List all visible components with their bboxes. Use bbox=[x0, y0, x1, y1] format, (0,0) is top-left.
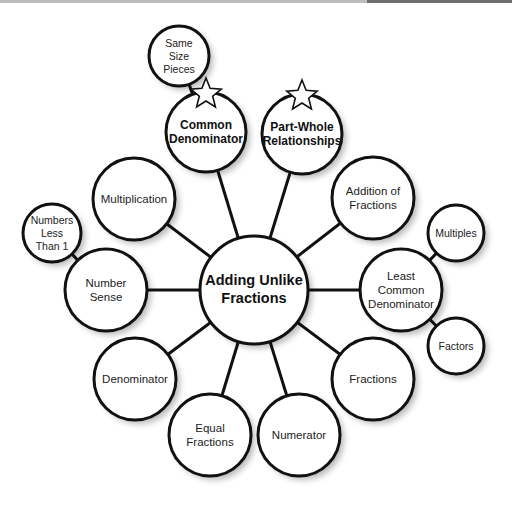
node-label: Multiples bbox=[435, 227, 476, 239]
node-label: Numerator bbox=[272, 429, 326, 441]
node-label: Least bbox=[387, 270, 416, 282]
node-same-size-pieces: SameSizePieces bbox=[149, 26, 209, 86]
node-label: Denominator bbox=[102, 373, 168, 385]
concept-map-canvas: Adding UnlikeFractionsCommonDenominatorP… bbox=[0, 0, 512, 506]
concept-map: Adding UnlikeFractionsCommonDenominatorP… bbox=[0, 0, 512, 506]
node-equal-fractions: EqualFractions bbox=[169, 394, 251, 476]
node-fractions: Fractions bbox=[332, 338, 414, 420]
node-numbers-less-than-1: NumbersLessThan 1 bbox=[23, 204, 81, 262]
node-label: Adding Unlike bbox=[205, 272, 302, 288]
node-label: Common bbox=[378, 284, 425, 296]
node-least-common-denominator: LeastCommonDenominator bbox=[360, 249, 442, 331]
node-part-whole: Part-WholeRelationships bbox=[262, 80, 342, 174]
node-circle bbox=[65, 249, 147, 331]
node-label: Denominator bbox=[169, 132, 243, 146]
node-center: Adding UnlikeFractions bbox=[200, 236, 308, 344]
node-label: Denominator bbox=[368, 298, 434, 310]
node-denominator: Denominator bbox=[94, 338, 176, 420]
node-label: Less bbox=[41, 227, 63, 239]
node-label: Addition of bbox=[346, 185, 401, 197]
node-label: Numbers bbox=[31, 214, 74, 226]
concept-nodes: Adding UnlikeFractionsCommonDenominatorP… bbox=[23, 26, 484, 476]
node-common-denominator: CommonDenominator bbox=[166, 78, 246, 172]
node-circle bbox=[169, 394, 251, 476]
node-label: Multiplication bbox=[101, 193, 167, 205]
node-addition-of-fractions: Addition ofFractions bbox=[332, 157, 414, 239]
node-label: Relationships bbox=[263, 134, 342, 148]
node-label: Common bbox=[180, 118, 232, 132]
node-circle bbox=[332, 157, 414, 239]
node-label: Equal bbox=[195, 422, 224, 434]
node-label: Part-Whole bbox=[270, 120, 334, 134]
node-label: Fractions bbox=[349, 199, 397, 211]
node-label: Fractions bbox=[349, 373, 397, 385]
node-label: Pieces bbox=[163, 63, 195, 75]
node-multiplication: Multiplication bbox=[93, 158, 175, 240]
node-label: Factors bbox=[438, 340, 473, 352]
node-label: Size bbox=[169, 50, 190, 62]
node-label: Than 1 bbox=[36, 240, 69, 252]
node-multiples: Multiples bbox=[428, 205, 484, 261]
node-label: Fractions bbox=[221, 290, 286, 306]
node-factors: Factors bbox=[428, 318, 484, 374]
node-number-sense: NumberSense bbox=[65, 249, 147, 331]
node-label: Same bbox=[165, 37, 193, 49]
node-label: Number bbox=[86, 277, 127, 289]
node-label: Sense bbox=[90, 291, 123, 303]
node-label: Fractions bbox=[186, 436, 234, 448]
node-numerator: Numerator bbox=[258, 394, 340, 476]
